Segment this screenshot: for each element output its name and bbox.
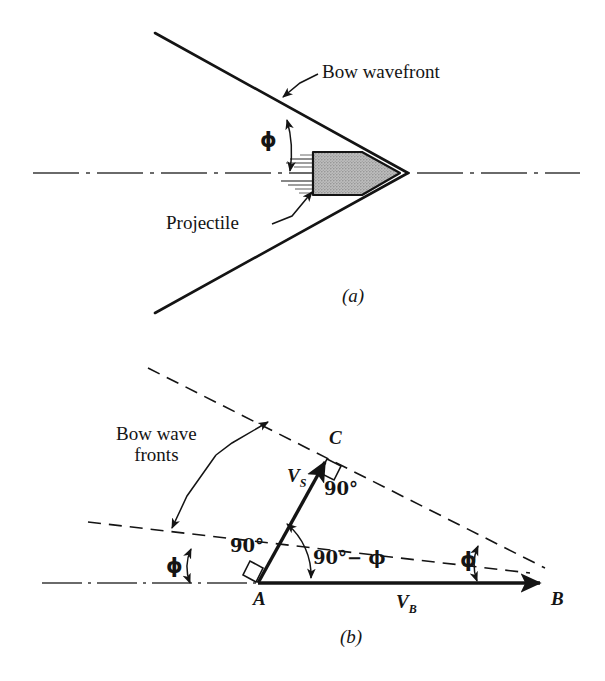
- bow-wave-fronts-line1: Bow wave: [116, 424, 197, 445]
- projectile-label-a: Projectile: [166, 213, 239, 232]
- vector-vs-label: VS: [287, 466, 306, 489]
- panel-a-graphics: [33, 33, 580, 313]
- projectile-leader-a: [272, 192, 312, 224]
- angle-90-minus-phi-arc: [287, 524, 311, 578]
- vector-vs-symbol: V: [287, 465, 300, 486]
- phi-arc-left: [187, 549, 191, 583]
- panel-b-tag: (b): [340, 627, 362, 646]
- phi-label-right-b: ϕ: [460, 550, 477, 571]
- bow-wave-fronts-line2: fronts: [116, 445, 197, 466]
- point-c-label: C: [329, 428, 342, 447]
- point-b-label: B: [551, 589, 564, 608]
- bow-wave-fronts-leader-lower: [172, 455, 216, 528]
- flow-streaks: [281, 155, 312, 193]
- figure-root: Bow wavefront Projectile ϕ (a) Bow wave …: [0, 0, 605, 681]
- bow-wavefront-label-a: Bow wavefront: [322, 62, 440, 81]
- bow-wavefront-lower-line: [155, 173, 408, 313]
- bow-wave-fronts-leader-upper: [216, 422, 268, 455]
- bow-wavefront-leader-a: [283, 74, 318, 97]
- vector-vb-subscript: B: [409, 602, 417, 616]
- angle-90-at-c-label: 90°: [324, 480, 358, 498]
- bow-wavefront-upper-line: [155, 33, 408, 173]
- angle-90-at-a-label: 90°: [230, 537, 264, 555]
- panel-a-tag: (a): [342, 286, 364, 305]
- angle-90-minus-phi-label: 90°− ϕ: [313, 549, 385, 567]
- phi-label-a: ϕ: [260, 130, 277, 151]
- vector-vb-label: VB: [396, 592, 417, 615]
- bow-wave-fronts-label-b: Bow wave fronts: [116, 424, 197, 465]
- point-a-label: A: [253, 589, 266, 608]
- vector-vb-symbol: V: [396, 591, 409, 612]
- vector-vs-subscript: S: [300, 476, 307, 490]
- phi-label-left-b: ϕ: [166, 556, 183, 577]
- projectile-body: [313, 152, 400, 195]
- figure-svg: [0, 0, 605, 681]
